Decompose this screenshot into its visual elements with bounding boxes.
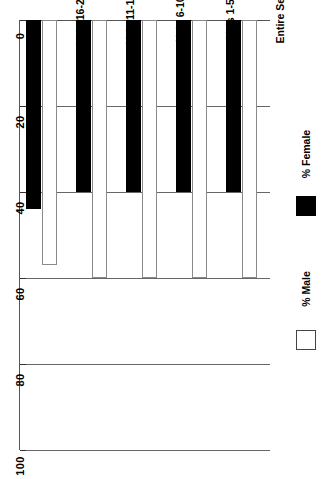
bar-group [127, 20, 158, 450]
category-label-vols-16-20: Vols 16-20 [74, 0, 86, 50]
bar-male [193, 20, 208, 278]
gridline-100 [20, 450, 270, 451]
bar-group [177, 20, 208, 450]
bar-male [143, 20, 158, 278]
bar-male [243, 20, 258, 278]
plot-area [20, 20, 270, 450]
legend-label-male: % Male [300, 260, 312, 318]
bar-male [93, 20, 108, 278]
bar-group [227, 20, 258, 450]
tick-label-60: 60 [14, 277, 26, 311]
category-label-vols-6-10: Vols 6-10 [174, 0, 186, 50]
plot-stage [20, 20, 270, 450]
category-label-vols-11-15: Vols 11-15 [124, 0, 136, 50]
tick-label-80: 80 [14, 363, 26, 397]
legend-swatch-female [296, 196, 316, 216]
bar-group [77, 20, 108, 450]
legend-label-female: % Female [300, 125, 312, 183]
category-label-vols-1-5: Vols 1-5 [224, 0, 236, 50]
tick-label-0: 0 [14, 19, 26, 53]
tick-label-40: 40 [14, 191, 26, 225]
tick-label-20: 20 [14, 105, 26, 139]
bar-group [27, 20, 58, 450]
category-label-entire-set: Entire Set [274, 0, 286, 50]
tick-label-100: 100 [14, 449, 26, 479]
bar-male [43, 20, 58, 265]
legend-swatch-male [296, 330, 316, 350]
bar-female [27, 20, 42, 209]
